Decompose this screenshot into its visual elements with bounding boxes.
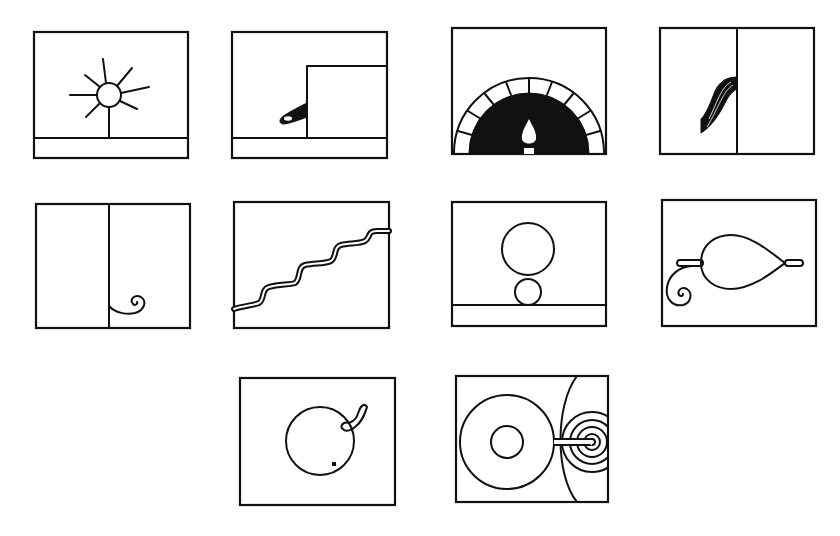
fruit-icon [239, 377, 398, 508]
panel-stacked-circles: stacked-circles [451, 201, 608, 329]
panel-sun-over-ground: sun-over-ground [33, 31, 190, 160]
staircase-icon [233, 201, 392, 331]
panel-fruit-with-stem: fruit-with-stem [239, 377, 398, 508]
panel-brush-stroke-divider: brush-stroke-divider [659, 27, 816, 156]
brush-stroke-icon [659, 27, 816, 156]
stacked-circles-icon [451, 201, 608, 329]
panel-teardrop-on-rod: teardrop-on-rod [661, 199, 818, 328]
sun-icon [33, 31, 190, 160]
sprout-icon [231, 31, 390, 160]
panel-rings-and-spiral: rings-and-spiral [455, 375, 610, 505]
panel-brick-oven-flame: brick-oven-flame [451, 27, 608, 156]
rings-spiral-icon [455, 375, 610, 505]
curl-icon [35, 203, 192, 331]
panel-divider-with-curl: divider-with-curl [35, 203, 192, 331]
panel-wavy-staircase: wavy-staircase [233, 201, 392, 331]
oven-icon [451, 27, 608, 156]
teardrop-icon [661, 199, 818, 328]
panel-sprout-at-step: sprout-at-step [231, 31, 390, 160]
